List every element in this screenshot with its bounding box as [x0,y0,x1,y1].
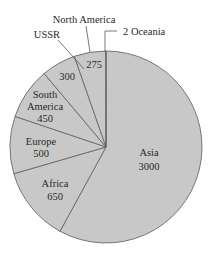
north-america-leader-line [86,26,90,52]
ussr-label: USSR [34,29,60,40]
north-america-label: North America [53,14,116,25]
africa-label: Africa [42,178,69,189]
south-america-label-line2: America [27,101,63,112]
north-america-value: 275 [86,59,102,70]
oceania-label: 2 Oceania [123,26,166,37]
africa-value: 650 [47,191,63,202]
pie-chart: Asia 3000 Africa 650 Europe 500 South Am… [0,0,212,256]
europe-value: 500 [33,148,49,159]
europe-label: Europe [26,136,57,147]
south-america-value: 450 [37,113,53,124]
asia-value: 3000 [139,161,160,172]
oceania-leader-line [105,31,117,52]
south-america-label-line1: South [33,89,58,100]
asia-label: Asia [139,147,159,158]
ussr-value: 300 [59,71,75,82]
